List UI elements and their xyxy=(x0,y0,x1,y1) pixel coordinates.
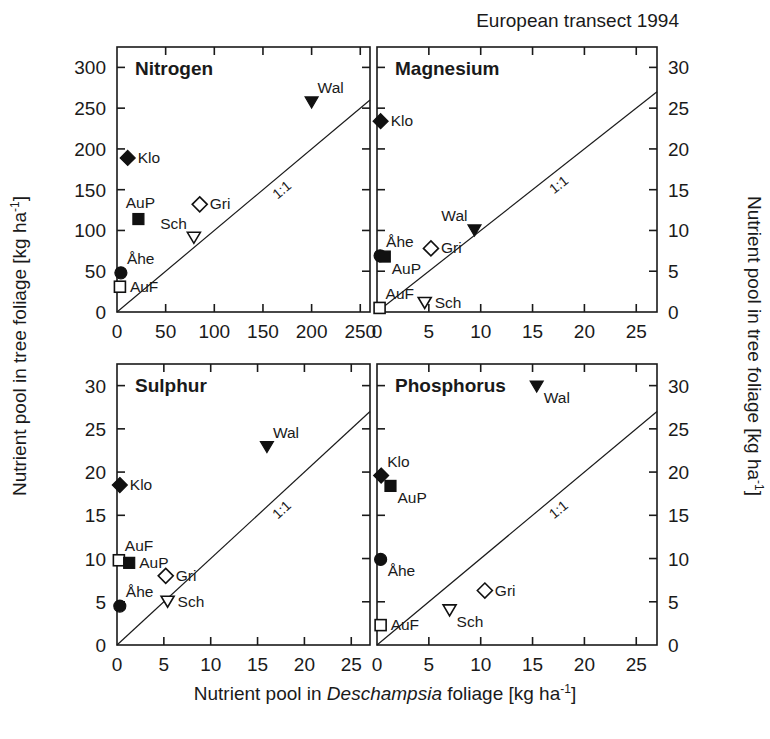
one-to-one-line-magnesium xyxy=(377,92,657,312)
panel-title-phosphorus: Phosphorus xyxy=(395,375,506,396)
marker-diamond xyxy=(192,197,207,212)
data-point-magnesium-Klo: Klo xyxy=(373,112,413,129)
data-point-label: Wal xyxy=(273,424,299,441)
data-point-magnesium-Sch: Sch xyxy=(418,294,461,311)
data-point-phosphorus-Klo: Klo xyxy=(374,453,410,484)
marker-triangle-down xyxy=(530,381,543,392)
panel-frame-sulphur xyxy=(117,364,370,645)
panel-phosphorus: 1:10510152025051015202530PhosphorusWalKl… xyxy=(372,364,689,675)
y-tick-label: 30 xyxy=(668,376,689,397)
marker-triangle-down xyxy=(187,232,200,243)
x-tick-label: 25 xyxy=(341,654,362,675)
y-tick-label: 0 xyxy=(95,302,106,323)
y-axis-title-left-superscript: -1 xyxy=(8,201,22,212)
one-to-one-line-phosphorus xyxy=(377,412,657,645)
one-to-one-line-sulphur xyxy=(117,412,370,645)
y-tick-label: 15 xyxy=(668,505,689,526)
x-axis-title-superscript: -1 xyxy=(560,682,571,696)
one-to-one-line-segment xyxy=(377,412,657,645)
data-point-nitrogen-Åhe: Åhe xyxy=(115,250,155,279)
x-tick-label: 0 xyxy=(372,321,383,342)
data-point-nitrogen-Sch: Sch xyxy=(160,215,200,244)
x-tick-label: 20 xyxy=(574,321,595,342)
one-to-one-line-segment xyxy=(117,412,370,645)
x-tick-label: 50 xyxy=(155,321,176,342)
y-axis-title-right: Nutrient pool in tree foliage [kg ha-1] xyxy=(744,196,766,496)
data-point-label: AuF xyxy=(130,278,158,295)
data-point-magnesium-AuF: AuF xyxy=(374,285,414,314)
y-tick-label: 0 xyxy=(668,635,679,656)
y-tick-label: 250 xyxy=(74,98,106,119)
y-axis-title-left-pre: Nutrient pool in tree foliage [kg ha xyxy=(9,211,30,496)
marker-square xyxy=(375,620,386,631)
marker-circle xyxy=(115,267,127,279)
data-point-sulphur-Sch: Sch xyxy=(161,593,204,610)
data-point-magnesium-Gri: Gri xyxy=(423,239,461,256)
y-tick-label: 5 xyxy=(95,592,106,613)
data-point-label: AuF xyxy=(386,285,414,302)
marker-square xyxy=(374,302,385,313)
x-tick-label: 5 xyxy=(159,654,170,675)
y-tick-label: 300 xyxy=(74,57,106,78)
x-axis-title-pre: Nutrient pool in xyxy=(194,683,327,704)
figure-caption: European transect 1994 xyxy=(476,10,679,31)
x-tick-label: 100 xyxy=(198,321,230,342)
data-point-nitrogen-AuP: AuP xyxy=(126,194,155,225)
data-point-nitrogen-Wal: Wal xyxy=(305,79,344,108)
data-point-label: AuP xyxy=(392,260,421,277)
data-point-label: AuP xyxy=(139,554,168,571)
data-point-magnesium-AuP: AuP xyxy=(379,251,421,276)
data-point-label: Klo xyxy=(391,112,413,129)
marker-square xyxy=(124,557,135,568)
x-tick-label: 25 xyxy=(626,654,647,675)
data-point-label: AuF xyxy=(125,537,153,554)
data-point-nitrogen-Klo: Klo xyxy=(120,149,160,166)
marker-triangle-down xyxy=(468,225,481,236)
data-point-label: Wal xyxy=(441,207,467,224)
x-tick-label: 5 xyxy=(424,654,435,675)
panel-sulphur: 1:10510152025051015202530SulphurKloAuFAu… xyxy=(85,364,370,675)
marker-triangle-down xyxy=(260,442,273,453)
data-point-label: Gri xyxy=(441,239,462,256)
marker-circle xyxy=(114,600,126,612)
data-point-label: Wal xyxy=(318,79,344,96)
x-tick-label: 5 xyxy=(424,321,435,342)
data-point-sulphur-Wal: Wal xyxy=(260,424,299,453)
x-tick-label: 20 xyxy=(294,654,315,675)
y-tick-label: 15 xyxy=(85,505,106,526)
x-tick-label: 150 xyxy=(247,321,279,342)
x-axis-title-post: foliage [kg ha xyxy=(442,683,561,704)
data-point-label: Sch xyxy=(160,215,187,232)
data-point-phosphorus-Sch: Sch xyxy=(443,605,483,631)
x-tick-label: 15 xyxy=(522,654,543,675)
panel-magnesium: 1:10510152025051015202530MagnesiumKloÅhe… xyxy=(372,47,689,342)
x-tick-label: 10 xyxy=(470,654,491,675)
data-point-label: Åhe xyxy=(386,233,414,250)
data-point-sulphur-AuP: AuP xyxy=(124,554,169,571)
marker-triangle-down xyxy=(305,97,318,108)
data-point-nitrogen-AuF: AuF xyxy=(114,278,158,295)
x-tick-label: 10 xyxy=(470,321,491,342)
data-point-sulphur-Åhe: Åhe xyxy=(114,583,154,612)
y-tick-label: 150 xyxy=(74,180,106,201)
y-tick-label: 100 xyxy=(74,220,106,241)
y-tick-label: 10 xyxy=(85,549,106,570)
x-tick-label: 200 xyxy=(296,321,328,342)
y-axis-title-left-end: ] xyxy=(9,196,30,201)
marker-triangle-down xyxy=(443,605,456,616)
y-tick-label: 25 xyxy=(668,98,689,119)
y-axis-title-left: Nutrient pool in tree foliage [kg ha-1] xyxy=(8,196,30,496)
data-point-label: Gri xyxy=(176,567,197,584)
marker-diamond xyxy=(423,241,438,256)
y-tick-label: 10 xyxy=(668,549,689,570)
marker-diamond xyxy=(477,583,492,598)
y-tick-label: 200 xyxy=(74,139,106,160)
x-tick-label: 15 xyxy=(247,654,268,675)
marker-diamond xyxy=(120,150,135,165)
x-tick-label: 15 xyxy=(522,321,543,342)
data-point-label: Gri xyxy=(495,582,516,599)
data-point-label: Åhe xyxy=(126,583,154,600)
data-point-label: Sch xyxy=(178,593,205,610)
y-tick-label: 20 xyxy=(668,139,689,160)
data-point-label: Klo xyxy=(387,453,409,470)
